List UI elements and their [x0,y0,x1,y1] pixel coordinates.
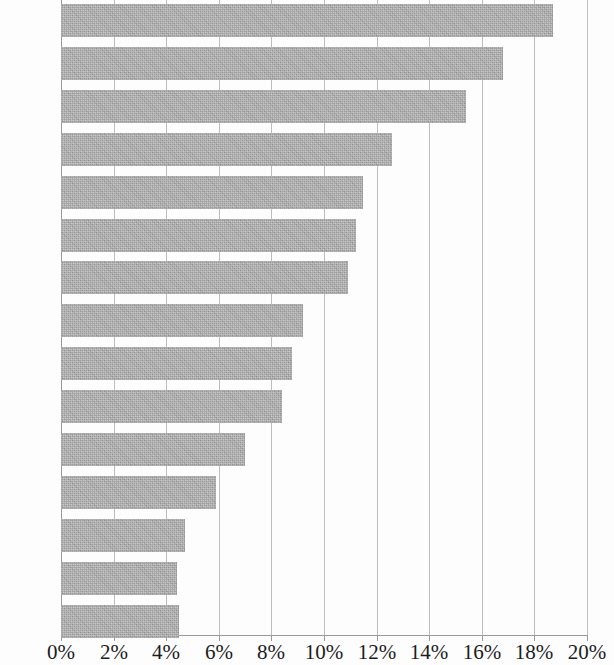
bar-chart: NOKSEKJPYBRLMXNEURZARCHFAUDCADMYRNZDGBPS… [0,0,614,665]
bar-myr [61,433,245,466]
plot-area: NOKSEKJPYBRLMXNEURZARCHFAUDCADMYRNZDGBPS… [0,0,614,636]
x-tick-label: 16% [463,640,502,665]
x-tick-label: 12% [358,640,397,665]
x-tick-label: 0% [47,640,75,665]
bar-sgd [61,562,177,595]
x-tick-label: 8% [257,640,285,665]
bar-krw [61,605,179,638]
bar-nzd [61,476,216,509]
bar-cad [61,390,282,423]
bar-nok [61,4,553,37]
x-tick-label: 18% [515,640,554,665]
x-tick-label: 2% [100,640,128,665]
bar-brl [61,133,392,166]
x-tick-label: 6% [205,640,233,665]
gridline-18pct [534,0,535,636]
bar-chf [61,304,303,337]
x-tick-label: 10% [305,640,344,665]
bar-gbp [61,519,185,552]
bar-eur [61,219,356,252]
bar-sek [61,47,503,80]
x-tick-label: 20% [568,640,607,665]
x-tick-label: 4% [152,640,180,665]
x-tick-label: 14% [410,640,449,665]
bar-jpy [61,90,466,123]
bar-mxn [61,176,363,209]
bar-zar [61,261,348,294]
gridline-16pct [482,0,483,636]
gridline-20pct [587,0,588,636]
bar-aud [61,347,292,380]
